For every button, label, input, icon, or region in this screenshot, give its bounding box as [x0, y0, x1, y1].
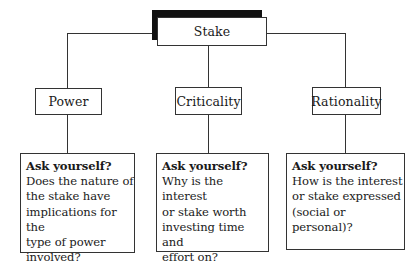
- power-question-heading: Ask yourself?: [26, 159, 134, 174]
- power-box: Power: [35, 88, 102, 115]
- stake-label: Stake: [194, 24, 231, 39]
- criticality-question-heading: Ask yourself?: [162, 159, 268, 174]
- power-question-box: Ask yourself? Does the nature of the sta…: [20, 153, 135, 253]
- connector-horizontal-left: [67, 33, 157, 34]
- criticality-question-text: Why is the interest or stake worth inves…: [162, 174, 268, 265]
- connector-criticality-question: [208, 114, 209, 154]
- power-question-text: Does the nature of the stake have implic…: [26, 174, 134, 265]
- connector-power-vertical: [67, 33, 68, 88]
- criticality-label: Criticality: [176, 94, 240, 109]
- rationality-question-heading: Ask yourself?: [292, 159, 404, 174]
- stake-box: Stake: [157, 17, 267, 46]
- connector-criticality-vertical: [208, 44, 209, 88]
- connector-rationality-question: [345, 114, 346, 154]
- connector-horizontal-right: [266, 33, 346, 34]
- rationality-label: Rationality: [311, 94, 381, 109]
- connector-rationality-vertical: [345, 33, 346, 88]
- power-label: Power: [48, 94, 88, 109]
- criticality-question-box: Ask yourself? Why is the interest or sta…: [156, 153, 269, 252]
- connector-power-question: [67, 114, 68, 154]
- rationality-box: Rationality: [312, 87, 381, 115]
- criticality-box: Criticality: [175, 87, 242, 115]
- rationality-question-box: Ask yourself? How is the interest or sta…: [286, 153, 405, 250]
- rationality-question-text: How is the interest or stake expressed (…: [292, 174, 404, 235]
